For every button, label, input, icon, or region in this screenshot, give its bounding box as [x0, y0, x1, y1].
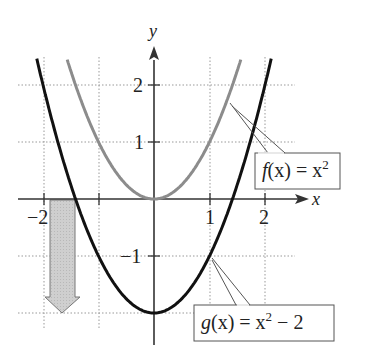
x-tick-label-neg2: −2 — [27, 206, 48, 228]
x-tick-label-1: 1 — [205, 206, 215, 228]
shift-down-arrow — [45, 200, 80, 313]
callout-g-fn: g — [201, 311, 211, 333]
callout-f-label: f(x) = x2 — [262, 157, 329, 182]
y-tick-label-2: 2 — [133, 74, 143, 96]
callout-f-var: (x) = x — [268, 159, 323, 181]
y-tick-label-1: 1 — [134, 131, 144, 153]
callout-g-label: g(x) = x2 − 2 — [201, 309, 303, 334]
y-axis-label: y — [147, 21, 157, 41]
y-tick-label-neg1: −1 — [120, 245, 141, 267]
y-axis — [148, 46, 160, 345]
x-tick-label-2: 2 — [259, 206, 269, 228]
x-axis-label: x — [311, 189, 320, 209]
callout-g-var: (x) = x — [211, 311, 266, 333]
callout-g-rest: − 2 — [272, 311, 303, 333]
callout-f-exp: 2 — [322, 157, 329, 172]
